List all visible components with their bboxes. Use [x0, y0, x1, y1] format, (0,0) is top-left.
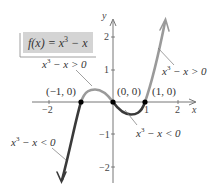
leader-line: [76, 70, 92, 86]
point-marker: [142, 99, 147, 104]
curve-segment-positive: [81, 90, 113, 103]
function-label: f(x) = x3 − x: [28, 35, 88, 50]
point-label: (1, 0): [152, 85, 176, 98]
point-label: (−1, 0): [46, 85, 76, 98]
y-axis-label: y: [101, 10, 107, 21]
y-tick-label: −1: [99, 129, 110, 140]
leader-line: [125, 110, 137, 125]
x-axis-label: x: [191, 104, 197, 115]
annotation-lower-left: x3 − x < 0: [10, 135, 56, 148]
curve-segment-negative: [113, 102, 145, 115]
x-tick-label: −2: [42, 104, 53, 115]
chart-canvas: f(x) = x3 − x x y −2 2 1 2 1 −1 −2: [0, 0, 223, 189]
leader-line: [52, 148, 66, 160]
curve-segment-negative: [62, 102, 81, 180]
point-label: (0, 0): [117, 85, 141, 98]
x-tick-label: 2: [175, 104, 180, 115]
point-marker: [78, 99, 83, 104]
y-tick-label: −2: [99, 162, 110, 173]
leader-line: [158, 48, 174, 65]
point-marker: [110, 99, 115, 104]
annotation-upper-left: x3 − x > 0: [41, 57, 87, 70]
y-tick-label: 2: [104, 31, 109, 42]
y-tick-label: 1: [104, 64, 109, 75]
annotation-lower-right: x3 − x < 0: [135, 126, 181, 139]
function-label-box: f(x) = x3 − x: [20, 32, 96, 57]
annotation-upper-right: x3 − x > 0: [161, 64, 207, 77]
